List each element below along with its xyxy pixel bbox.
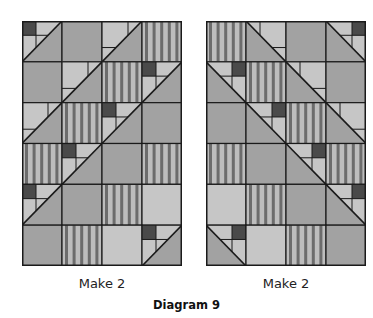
quilt-right-svg <box>206 21 366 266</box>
quilt-block-S <box>286 103 326 144</box>
quilt-block-M <box>22 62 62 103</box>
quilt-block-M <box>22 225 62 266</box>
quilt-block-S <box>62 103 102 144</box>
quilt-block-S <box>22 144 62 185</box>
quilt-block-A <box>206 225 246 266</box>
quilt-block-A <box>206 62 246 103</box>
quilt-block-S <box>102 184 142 225</box>
quilt-block-S <box>286 225 326 266</box>
quilt-block-A <box>246 103 286 144</box>
quilt-block-M <box>246 144 286 185</box>
quilt-block-A <box>102 103 142 144</box>
caption-right: Make 2 <box>206 276 366 291</box>
quilt-block-M <box>286 21 326 62</box>
quilt-block-S <box>142 144 182 185</box>
quilt-block-A <box>326 21 366 62</box>
quilt-block-B <box>102 21 142 62</box>
caption-left: Make 2 <box>22 276 182 291</box>
quilt-block-B <box>62 62 102 103</box>
quilt-block-A <box>62 144 102 185</box>
quilt-block-S <box>102 62 142 103</box>
quilt-block-S <box>206 21 246 62</box>
quilt-block-A <box>22 21 62 62</box>
quilt-block-B <box>246 21 286 62</box>
quilt-block-B <box>326 103 366 144</box>
quilt-block-A <box>22 184 62 225</box>
quilt-block-M <box>286 184 326 225</box>
quilt-block-M <box>142 103 182 144</box>
quilt-right <box>206 21 366 266</box>
quilt-block-M <box>326 62 366 103</box>
quilt-block-M <box>62 21 102 62</box>
quilt-block-S <box>326 144 366 185</box>
quilt-block-A <box>286 144 326 185</box>
quilt-block-S <box>206 144 246 185</box>
quilt-left-svg <box>22 21 182 266</box>
quilt-block-S <box>142 21 182 62</box>
quilt-block-S <box>246 184 286 225</box>
quilt-block-L <box>206 184 246 225</box>
quilt-block-M <box>62 184 102 225</box>
quilt-block-M <box>102 144 142 185</box>
quilt-block-M <box>206 103 246 144</box>
quilt-left <box>22 21 182 266</box>
quilt-block-B <box>286 62 326 103</box>
quilt-block-S <box>62 225 102 266</box>
quilt-block-A <box>142 225 182 266</box>
quilt-block-A <box>142 62 182 103</box>
quilt-block-L <box>142 184 182 225</box>
quilt-block-A <box>326 184 366 225</box>
quilt-block-S <box>246 62 286 103</box>
quilt-block-L <box>246 225 286 266</box>
quilt-block-M <box>326 225 366 266</box>
quilt-block-L <box>102 225 142 266</box>
diagram-title: Diagram 9 <box>0 298 373 312</box>
quilt-block-B <box>22 103 62 144</box>
